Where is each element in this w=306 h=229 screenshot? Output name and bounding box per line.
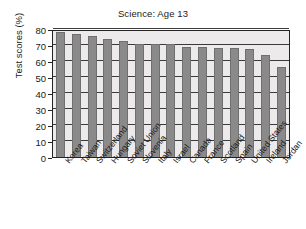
y-tick-label: 40 (35, 89, 46, 100)
y-tick-label: 10 (35, 137, 46, 148)
x-axis-tick-labels: KoreaTaiwanSwitzerlandHungarySoviet Unio… (52, 159, 290, 229)
chart-title: Science: Age 13 (0, 8, 306, 19)
bar (72, 34, 81, 157)
bar-series (53, 31, 289, 157)
bar (182, 47, 191, 157)
y-tick-label: 50 (35, 73, 46, 84)
gridline (53, 28, 289, 29)
figure: Science: Age 13 Test scores (%) 01020304… (0, 0, 306, 229)
y-tick-label: 70 (35, 41, 46, 52)
bar (166, 44, 175, 157)
y-tick-label: 20 (35, 121, 46, 132)
y-tick-label: 30 (35, 105, 46, 116)
plot-area (52, 30, 290, 158)
bar (245, 49, 254, 157)
y-tick-label: 0 (41, 153, 46, 164)
y-tick-label: 80 (35, 25, 46, 36)
y-axis-tick-labels: 01020304050607080 (0, 30, 48, 158)
y-tick-label: 60 (35, 57, 46, 68)
bar (56, 32, 65, 157)
